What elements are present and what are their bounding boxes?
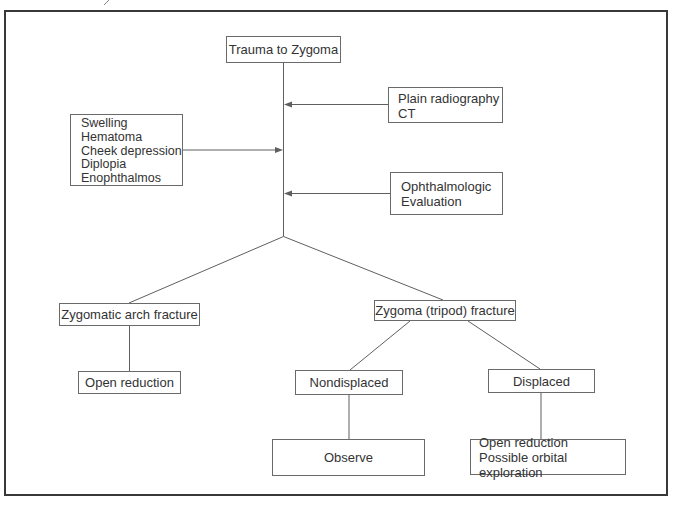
node-trauma-to-zygoma: Trauma to Zygoma [226,36,341,63]
node-open-reduction-orbital-exploration: Open reduction Possible orbital explorat… [470,439,626,475]
figure-frame [4,10,668,496]
node-displaced: Displaced [488,369,595,393]
flowchart-page: Trauma to Zygoma Plain radiography CT Sw… [0,0,679,511]
node-plain-radiography-ct: Plain radiography CT [388,87,503,123]
node-nondisplaced: Nondisplaced [295,370,403,395]
node-open-reduction: Open reduction [78,371,181,394]
node-observe: Observe [272,439,425,476]
node-clinical-signs: Swelling Hematoma Cheek depression Diplo… [70,114,183,186]
node-zygoma-tripod-fracture: Zygoma (tripod) fracture [374,300,516,321]
node-ophthalmologic-evaluation: Ophthalmologic Evaluation [390,172,503,215]
node-zygomatic-arch-fracture: Zygomatic arch fracture [59,303,200,326]
cropped-text-artifact [104,0,109,5]
